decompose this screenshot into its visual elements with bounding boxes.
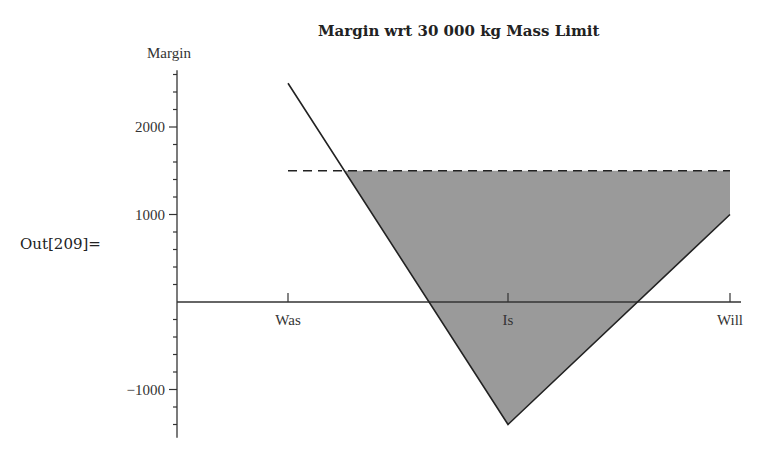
y-tick-label: 1000 bbox=[135, 207, 165, 223]
shaded-margin-region bbox=[344, 171, 730, 425]
chart-plot: −100010002000MarginWasIsWill bbox=[0, 0, 771, 465]
y-tick-label: 2000 bbox=[135, 119, 165, 135]
y-tick-label: −1000 bbox=[127, 382, 165, 398]
x-tick-label: Was bbox=[275, 312, 301, 328]
y-axis-label: Margin bbox=[147, 45, 191, 61]
x-tick-label: Is bbox=[503, 312, 514, 328]
x-tick-label: Will bbox=[717, 312, 743, 328]
